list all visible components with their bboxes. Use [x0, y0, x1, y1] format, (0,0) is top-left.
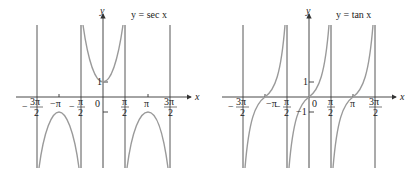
svg-text:2: 2	[373, 107, 378, 118]
tick-label-pi-2: π 2	[121, 96, 129, 118]
tick-label-neg-pi-2: − π 2	[275, 96, 291, 118]
tick-label-pi: π	[144, 98, 149, 109]
svg-text:3π: 3π	[236, 96, 246, 107]
x-axis-label: x	[399, 91, 405, 102]
tan-chart: y = tan x y x 1 0 −1 −π π − 3π 2 − π 2 π…	[222, 5, 405, 168]
y-axis-label: y	[99, 5, 105, 16]
x-axis-label: x	[194, 91, 200, 102]
svg-text:2: 2	[168, 107, 173, 118]
tick-label-3pi-2: 3π 2	[164, 96, 177, 118]
tick-label-neg-3pi-2: − 3π 2	[228, 96, 249, 118]
svg-text:−: −	[275, 101, 281, 112]
svg-text:2: 2	[284, 107, 289, 118]
svg-text:π: π	[284, 96, 289, 107]
svg-text:2: 2	[122, 107, 127, 118]
svg-text:3π: 3π	[369, 96, 379, 107]
tick-label-neg-pi-2: − π 2	[69, 96, 85, 118]
svg-text:π: π	[78, 96, 83, 107]
tick-label-neg-pi: −π	[50, 98, 61, 109]
tick-label-0: 0	[312, 98, 317, 109]
sec-chart: y = sec x y x 1 0 −π π − 3π 2 − π 2 π 2 …	[16, 5, 200, 168]
svg-text:−: −	[69, 101, 75, 112]
sec-title: y = sec x	[131, 9, 167, 20]
sec-curve	[39, 25, 168, 168]
asymptotes	[37, 25, 170, 168]
tick-label-3pi-2: 3π 2	[369, 96, 382, 118]
svg-text:3π: 3π	[30, 96, 40, 107]
y-axis-label: y	[305, 5, 311, 16]
svg-text:2: 2	[328, 107, 333, 118]
tick-label-1: 1	[303, 76, 308, 87]
tick-label-pi: π	[350, 98, 355, 109]
svg-text:3π: 3π	[164, 96, 174, 107]
svg-text:−: −	[228, 101, 234, 112]
tick-label-neg-1: −1	[296, 106, 307, 117]
svg-text:2: 2	[240, 107, 245, 118]
tick-label-1: 1	[97, 76, 102, 87]
svg-text:2: 2	[78, 107, 83, 118]
tick-label-neg-3pi-2: − 3π 2	[22, 96, 43, 118]
figure: y = sec x y x 1 0 −π π − 3π 2 − π 2 π 2 …	[0, 0, 414, 183]
svg-text:2: 2	[34, 107, 39, 118]
svg-text:−: −	[22, 101, 28, 112]
tick-label-pi-2: π 2	[327, 96, 335, 118]
tick-label-0: 0	[95, 98, 100, 109]
svg-text:π: π	[328, 96, 333, 107]
svg-text:π: π	[122, 96, 127, 107]
tan-title: y = tan x	[336, 9, 371, 20]
